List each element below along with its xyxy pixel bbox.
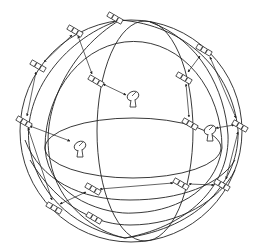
orbit-lower-1 <box>25 140 235 200</box>
satellite-dish-icon <box>203 123 218 141</box>
orbit-lower-2 <box>30 160 235 225</box>
satellite-icon <box>232 120 248 132</box>
orbit-left-1 <box>28 20 125 238</box>
satellite-icon <box>196 44 212 56</box>
meridian-orbit <box>97 21 193 241</box>
satellite-icon <box>176 72 192 84</box>
satellite-icon <box>173 178 189 190</box>
diagram-canvas <box>0 0 262 244</box>
satellite-icon <box>46 202 62 214</box>
satellite-dish-icon <box>126 89 141 107</box>
satellite-icon <box>86 212 102 224</box>
satellite-icon <box>85 183 101 195</box>
earth-lower-outline <box>45 148 222 213</box>
satellite-constellation-diagram <box>0 0 262 244</box>
satellite-dish-icon <box>73 139 88 157</box>
ground-stations <box>73 89 218 157</box>
